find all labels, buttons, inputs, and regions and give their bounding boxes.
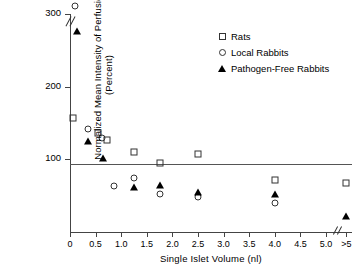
y-axis-title: Normalized Mean Intensity of Perfusion (… bbox=[92, 0, 114, 170]
x-tick-2.5 bbox=[198, 232, 199, 237]
x-tick-label-4.0: 4.0 bbox=[269, 239, 282, 249]
x-tick-0 bbox=[70, 232, 71, 237]
y-tick-label-100: 100 bbox=[45, 152, 61, 163]
x-tick-3.0 bbox=[224, 232, 225, 237]
x-axis-line bbox=[70, 232, 352, 233]
legend-label: Rats bbox=[231, 31, 251, 42]
data-point-filled-triangle bbox=[156, 181, 164, 188]
x-tick-1.0 bbox=[121, 232, 122, 237]
x-tick->5 bbox=[346, 232, 347, 237]
legend-marker-open-circle-icon bbox=[216, 49, 228, 56]
data-point-open-circle bbox=[271, 199, 278, 206]
x-axis-break-icon bbox=[332, 226, 346, 238]
data-point-filled-triangle bbox=[194, 189, 202, 196]
legend: RatsLocal RabbitsPathogen-Free Rabbits bbox=[216, 28, 356, 76]
data-point-filled-triangle bbox=[130, 183, 138, 190]
legend-label: Local Rabbits bbox=[231, 47, 289, 58]
y-tick-label-200: 200 bbox=[45, 80, 61, 91]
x-tick-label-3.0: 3.0 bbox=[217, 239, 230, 249]
data-point-open-circle bbox=[84, 125, 91, 132]
x-axis-title: Single Islet Volume (nl) bbox=[70, 253, 352, 264]
x-tick-label-1.5: 1.5 bbox=[141, 239, 154, 249]
data-point-filled-triangle bbox=[271, 191, 279, 198]
data-point-open-circle bbox=[72, 3, 79, 10]
x-tick-5.0 bbox=[326, 232, 327, 237]
legend-label: Pathogen-Free Rabbits bbox=[231, 63, 329, 74]
data-point-open-square bbox=[131, 149, 138, 156]
x-tick-label-5.0: 5.0 bbox=[320, 239, 333, 249]
x-tick-4.0 bbox=[275, 232, 276, 237]
data-point-open-circle bbox=[110, 183, 117, 190]
x-tick-label-0: 0 bbox=[67, 239, 72, 249]
x-tick-label-2.0: 2.0 bbox=[166, 239, 179, 249]
open-circle-icon bbox=[219, 49, 226, 56]
x-tick-2.0 bbox=[172, 232, 173, 237]
open-square-icon bbox=[219, 33, 226, 40]
x-tick-label-0.5: 0.5 bbox=[89, 239, 102, 249]
data-point-filled-triangle bbox=[342, 213, 350, 220]
data-point-open-square bbox=[271, 176, 278, 183]
x-tick-0.5 bbox=[96, 232, 97, 237]
legend-item-pathogen-free-rabbits: Pathogen-Free Rabbits bbox=[216, 60, 356, 76]
data-point-filled-triangle bbox=[73, 27, 81, 34]
y-tick-300: 300 bbox=[65, 14, 71, 15]
legend-item-rats: Rats bbox=[216, 28, 356, 44]
data-point-open-square bbox=[69, 114, 76, 121]
legend-marker-open-square-icon bbox=[216, 33, 228, 40]
data-point-open-square bbox=[156, 159, 163, 166]
data-point-open-square bbox=[343, 179, 350, 186]
x-tick-1.5 bbox=[147, 232, 148, 237]
x-tick-label-2.5: 2.5 bbox=[192, 239, 205, 249]
y-tick-label-300: 300 bbox=[45, 7, 61, 18]
y-tick-100: 100 bbox=[65, 159, 71, 160]
data-point-open-square bbox=[195, 150, 202, 157]
x-tick-label-1.0: 1.0 bbox=[115, 239, 128, 249]
y-axis-line bbox=[70, 14, 71, 232]
data-point-open-circle bbox=[156, 191, 163, 198]
x-tick-label-4.5: 4.5 bbox=[294, 239, 307, 249]
legend-marker-filled-triangle-icon bbox=[216, 65, 228, 72]
x-tick-label->5: >5 bbox=[341, 239, 351, 249]
data-point-open-circle bbox=[131, 174, 138, 181]
x-tick-4.5 bbox=[300, 232, 301, 237]
filled-triangle-icon bbox=[218, 65, 226, 72]
x-tick-3.5 bbox=[249, 232, 250, 237]
legend-item-local-rabbits: Local Rabbits bbox=[216, 44, 356, 60]
x-tick-label-3.5: 3.5 bbox=[243, 239, 256, 249]
y-tick-200: 200 bbox=[65, 87, 71, 88]
data-point-filled-triangle bbox=[84, 138, 92, 145]
chart-screenshot: 100200300 00.51.01.52.02.53.03.54.04.55.… bbox=[0, 0, 360, 271]
